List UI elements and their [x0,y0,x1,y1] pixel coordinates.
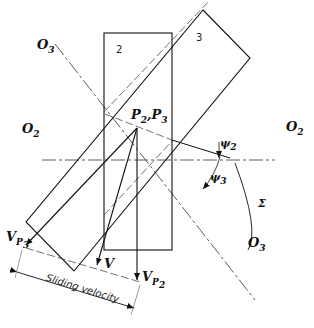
o3-bottom-label: O3 [248,236,266,253]
body-2-number: 2 [116,44,122,55]
crossed-helical-gears-velocity-diagram: O3 O2 O2 O3 P2,P3 ψ2 ψ3 Σ VP3 VP2 V Slid… [0,0,314,328]
vp3-label: VP3 [6,230,29,249]
body-3-number: 3 [196,32,202,43]
o2-right-label: O2 [286,120,304,137]
vp3-vp2-dash [26,248,140,282]
vp2-label: VP2 [142,270,165,289]
p2-p3-label: P2,P3 [131,108,168,125]
psi3-label: ψ3 [210,172,227,186]
sv-extension-right [131,285,140,315]
v-label: V [104,257,114,270]
sv-extension-left [15,250,22,278]
body-3-rectangle [26,10,250,271]
helix-line-3 [104,0,210,112]
sigma-label: Σ [258,198,266,209]
o2-left-label: O2 [22,122,40,139]
body-2-rectangle [104,33,172,250]
o3-top-label: O3 [37,38,55,55]
psi2-label: ψ2 [220,138,237,152]
